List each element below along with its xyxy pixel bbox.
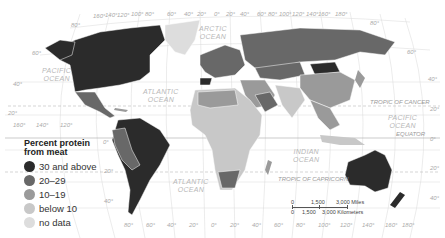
legend-label: 30 and above (39, 161, 97, 172)
equator-label: EQUATOR (396, 131, 425, 137)
legend-item: 10–19 (24, 187, 97, 201)
south-asia (275, 85, 305, 118)
scale-tick (319, 205, 320, 209)
longitude-label: 20° (189, 222, 198, 228)
swatch-below-10-icon (24, 203, 35, 214)
swatch-30-plus-icon (24, 161, 35, 172)
scale-km-1500: 1,500 (302, 209, 316, 215)
atlantic-ocean-north-label: ATLANTIC OCEAN (143, 88, 179, 104)
longitude-label: 40° (252, 222, 261, 228)
swatch-10-19-icon (24, 189, 35, 200)
swatch-20-29-icon (24, 175, 35, 186)
tropic-of-cancer-label: TROPIC OF CANCER (370, 99, 430, 105)
legend-item: no data (24, 215, 97, 229)
atlantic-ocean-south-label: ATLANTIC OCEAN (173, 178, 209, 194)
longitude-label: 140° (105, 12, 117, 18)
longitude-label: 100° (131, 11, 143, 17)
latitude-label: 60° (407, 49, 416, 55)
longitude-label: 160° (318, 11, 330, 17)
north-africa (198, 90, 238, 108)
legend-title-line2: from meat (24, 148, 97, 157)
south-africa (218, 170, 240, 188)
longitude-label: 60° (257, 11, 266, 17)
longitude-label: 120° (117, 12, 129, 18)
longitude-label: 40° (240, 11, 249, 17)
longitude-label: 160° (93, 13, 105, 19)
latitude-label: 80° (370, 20, 379, 26)
tropic-of-capricorn-label: TROPIC OF CAPRICORN (278, 176, 348, 182)
greenland (165, 20, 200, 55)
indonesia (320, 135, 365, 145)
legend-label: below 10 (39, 203, 77, 214)
europe (200, 45, 245, 78)
caribbean (114, 108, 128, 112)
longitude-label: 20° (226, 11, 235, 17)
longitude-label: 40° (184, 11, 193, 17)
pacific-ocean-east-label: PACIFIC OCEAN (388, 114, 417, 130)
mexico (75, 92, 115, 118)
longitude-label: 60° (167, 11, 176, 17)
longitude-label: 100° (279, 11, 291, 17)
longitude-label: 120° (292, 11, 304, 17)
longitude-label: 60° (274, 222, 283, 228)
china (300, 72, 355, 108)
longitude-label: 20° (230, 222, 239, 228)
pacific-ocean-west-label: PACIFIC OCEAN (42, 67, 71, 83)
latitude-label: 20° (430, 106, 439, 112)
arctic-ocean-label: ARCTIC OCEAN (199, 25, 227, 41)
scale-miles-1500: 1,500 (311, 199, 325, 205)
legend-item: below 10 (24, 201, 97, 215)
longitude-label: 80° (145, 11, 154, 17)
japan (355, 70, 365, 88)
legend: Percent protein from meat 30 and above 2… (24, 139, 97, 229)
legend-label: 10–19 (39, 189, 65, 200)
legend-item: 30 and above (24, 159, 97, 173)
longitude-label: 120° (60, 122, 72, 128)
latitude-label: 20° (104, 168, 113, 174)
latitude-label: 20° (430, 165, 439, 171)
scale-km-0: 0 (291, 209, 294, 215)
legend-label: 20–29 (39, 175, 65, 186)
longitude-label: 0° (211, 222, 217, 228)
swatch-no-data-icon (24, 217, 35, 228)
indian-ocean-label: INDIAN OCEAN (293, 148, 319, 164)
longitude-label: 0° (214, 11, 220, 17)
longitude-label: 80° (268, 11, 277, 17)
latitude-label: 0° (103, 139, 109, 145)
longitude-label: 80° (124, 222, 133, 228)
latitude-label: 40° (13, 81, 22, 87)
madagascar (265, 160, 272, 175)
latitude-label: 40° (428, 76, 437, 82)
legend-label: no data (39, 217, 71, 228)
latitude-label: 20° (8, 110, 17, 116)
iberia (200, 78, 212, 85)
latitude-label: 40° (430, 195, 439, 201)
longitude-label: 40° (167, 222, 176, 228)
latitude-label: 40° (104, 198, 113, 204)
scale-km-3000: 3,000 Kilometers (322, 209, 363, 215)
latitude-label: 60° (32, 50, 41, 56)
longitude-label: 180° (402, 222, 414, 228)
latitude-label: 80° (71, 22, 80, 28)
longitude-label: 20° (197, 11, 206, 17)
longitude-label: 160° (13, 122, 25, 128)
longitude-label: 60° (146, 222, 155, 228)
latitude-label: 0° (430, 136, 436, 142)
scale-miles-3000: 3,000 Miles (336, 199, 364, 205)
longitude-label: 180° (335, 11, 347, 17)
legend-item: 20–29 (24, 173, 97, 187)
scale-bar: 0 1,500 3,000 Miles 0 1,500 3,000 Kilome… (291, 199, 401, 229)
longitude-label: 140° (36, 122, 48, 128)
longitude-label: 140° (306, 11, 318, 17)
australia (345, 150, 392, 192)
